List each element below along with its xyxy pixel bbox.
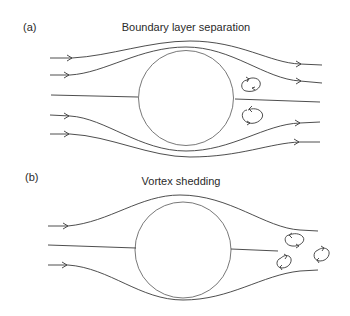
eddy-a-upper bbox=[242, 77, 261, 91]
cylinder-a bbox=[139, 51, 234, 146]
streamline-a-top-1 bbox=[50, 41, 322, 65]
panel-a-label: (a) bbox=[23, 21, 36, 33]
streamline-a-middle-left bbox=[51, 95, 138, 97]
panel-b: (b) Vortex shedding bbox=[25, 171, 329, 300]
streamline-b-middle-right bbox=[231, 249, 278, 251]
vortex-b-2 bbox=[277, 254, 291, 270]
streamline-a-middle-right bbox=[235, 99, 320, 102]
flow-diagram: (a) Boundary layer separation bbox=[0, 0, 350, 316]
vortex-b-3 bbox=[314, 246, 329, 263]
streamline-a-top-2 bbox=[50, 47, 322, 83]
cylinder-b bbox=[135, 202, 231, 298]
panel-a: (a) Boundary layer separation bbox=[23, 21, 322, 157]
streamline-b-top bbox=[48, 195, 318, 231]
eddy-a-lower bbox=[242, 106, 262, 125]
panel-b-title: Vortex shedding bbox=[142, 175, 221, 187]
streamline-b-bottom bbox=[48, 265, 318, 300]
vortex-b-1 bbox=[285, 233, 304, 248]
panel-b-label: (b) bbox=[25, 171, 38, 183]
streamline-b-middle-left bbox=[48, 245, 136, 248]
panel-a-title: Boundary layer separation bbox=[122, 21, 250, 33]
